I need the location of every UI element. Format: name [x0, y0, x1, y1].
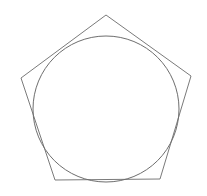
diagram-canvas: [0, 0, 207, 196]
pentagon-circle-figure: [0, 0, 207, 196]
pentagon: [21, 15, 191, 180]
inscribed-circle: [33, 36, 179, 182]
